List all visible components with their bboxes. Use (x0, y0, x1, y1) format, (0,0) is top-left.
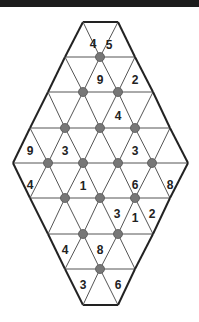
clue-number[interactable]: 5 (106, 38, 113, 52)
clue-number[interactable]: 3 (62, 144, 69, 158)
vertex-dot (79, 159, 88, 168)
border-edge (48, 57, 65, 92)
clue-number[interactable]: 4 (115, 109, 122, 123)
clue-number[interactable]: 2 (132, 73, 139, 87)
border-edge (170, 128, 188, 163)
vertex-dot (114, 230, 123, 239)
grid-line (65, 92, 83, 128)
clue-number[interactable]: 3 (80, 278, 87, 292)
grid-line (48, 92, 65, 128)
vertex-dot (114, 88, 123, 97)
clue-number[interactable]: 2 (149, 207, 156, 221)
border-edge (153, 92, 170, 128)
border-edge (30, 92, 48, 128)
clue-number[interactable]: 3 (132, 144, 139, 158)
clue-number[interactable]: 1 (132, 211, 139, 225)
border-edge (135, 234, 153, 269)
grid-line (83, 128, 100, 163)
grid-line (100, 163, 118, 198)
puzzle-board[interactable]: 4592493341683124836 (0, 0, 199, 322)
grid-line (153, 128, 170, 163)
grid-line (48, 163, 65, 198)
vertex-dot (79, 88, 88, 97)
border-edge (65, 22, 83, 57)
vertex-dot (131, 124, 140, 133)
vertex-dot (61, 194, 70, 203)
vertex-dot (96, 53, 105, 62)
grid-line (48, 198, 65, 234)
grid-line (65, 198, 83, 234)
grid-line (135, 92, 153, 128)
clue-number[interactable]: 6 (115, 278, 122, 292)
vertex-dot (131, 194, 140, 203)
vertex-dot (96, 124, 105, 133)
grid-line (100, 128, 118, 163)
vertex-dot (44, 159, 53, 168)
clue-number[interactable]: 4 (90, 37, 97, 51)
clue-number[interactable]: 8 (97, 243, 104, 257)
vertex-dot (96, 194, 105, 203)
border-edge (118, 22, 135, 57)
clue-number[interactable]: 9 (27, 144, 34, 158)
clue-number[interactable]: 8 (167, 178, 174, 192)
vertex-dot (61, 124, 70, 133)
border-edge (153, 198, 170, 234)
grid-line (83, 92, 100, 128)
clue-number[interactable]: 1 (80, 179, 87, 193)
vertex-dot (96, 265, 105, 274)
clue-number[interactable]: 6 (132, 178, 139, 192)
vertex-dot (148, 159, 157, 168)
clue-number[interactable]: 4 (27, 178, 34, 192)
vertex-dot (114, 159, 123, 168)
grid-line (83, 198, 100, 234)
clue-number[interactable]: 9 (97, 73, 104, 87)
border-edge (30, 198, 48, 234)
grid-line (65, 57, 83, 92)
clue-number[interactable]: 3 (114, 207, 121, 221)
vertex-dot (79, 230, 88, 239)
clue-number[interactable]: 4 (62, 243, 69, 257)
grid-line (118, 234, 135, 269)
